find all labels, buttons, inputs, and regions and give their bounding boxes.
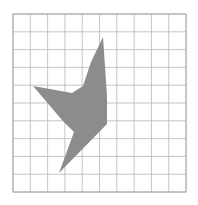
figure-canvas <box>0 0 198 205</box>
figure-svg <box>0 0 198 205</box>
